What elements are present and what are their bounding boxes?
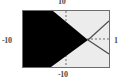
- asymptote-lower-line: [88, 40, 109, 54]
- axis-label-right: 1: [114, 37, 118, 45]
- shaded-region-polygon: [23, 11, 88, 67]
- axis-label-left: -10: [2, 37, 12, 45]
- figure-container: 10 -10 1 -10: [0, 0, 120, 83]
- axis-label-top: 10: [58, 0, 65, 6]
- axis-label-bottom: -10: [58, 71, 68, 79]
- asymptote-upper-line: [88, 21, 109, 40]
- plot-canvas: [23, 11, 109, 67]
- plot-frame: [22, 10, 110, 68]
